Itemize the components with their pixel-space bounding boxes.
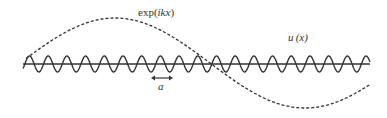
periodic-function-arg: (x) <box>296 31 308 43</box>
plane-wave-label: exp(ikx) <box>138 7 174 18</box>
periodic-function-label: u (x) <box>288 32 308 43</box>
lattice-constant-label: a <box>158 81 164 92</box>
plane-wave-suffix: ) <box>170 6 174 18</box>
plane-wave-arg: ikx <box>158 6 171 18</box>
plane-wave-dashed-curve <box>26 18 370 108</box>
periodic-function-name: u <box>288 31 294 43</box>
plane-wave-prefix: exp( <box>138 6 158 18</box>
bloch-wave-diagram <box>0 0 387 118</box>
